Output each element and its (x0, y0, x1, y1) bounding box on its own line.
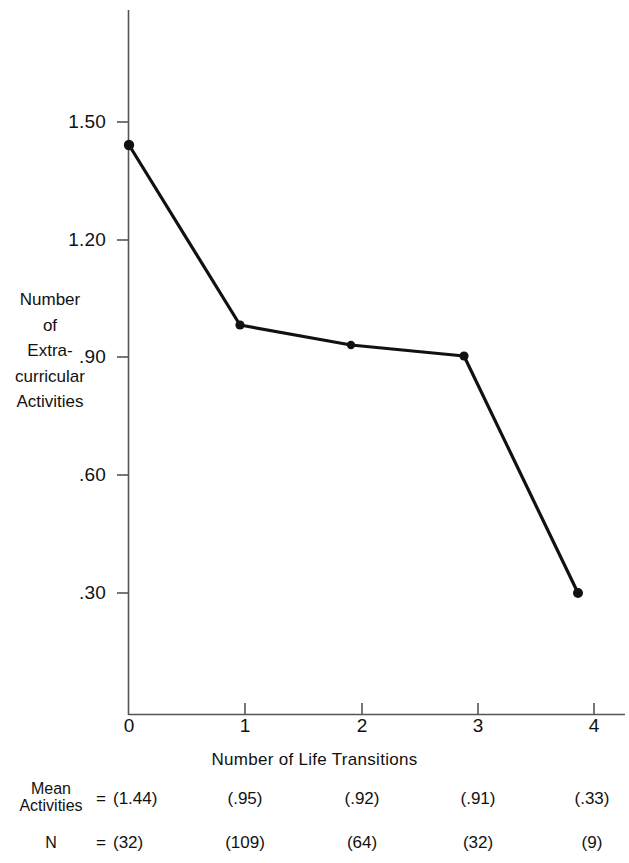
stats-row-label-mean-activities: Mean Activities (8, 780, 94, 814)
x-axis-title: Number of Life Transitions (0, 750, 629, 770)
stats-row-label-n-line-1: N (8, 834, 94, 851)
data-point-2 (347, 341, 355, 349)
stats-annotation-table: Mean Activities = (1.44) (.95) (.92) (.9… (0, 779, 629, 863)
x-tick-label-3: 3 (458, 716, 498, 735)
stats-row-label-line-2: Activities (8, 797, 94, 814)
y-axis-title-line-3: Extra- (2, 338, 98, 364)
stats-row-label-line-1: Mean (8, 780, 94, 797)
stats-cell-n-2: (64) (323, 834, 401, 851)
stats-row-n: N = (32) (109) (64) (32) (9) (0, 823, 629, 863)
y-tick-label-0-60: .60 (44, 465, 106, 484)
x-tick-label-0: 0 (109, 716, 149, 735)
stats-row-equals-mean: = (96, 790, 106, 807)
stats-cell-n-0: (32) (113, 834, 203, 851)
data-point-3 (459, 351, 468, 360)
line-chart-figure: 1.50 1.20 .90 .60 .30 Number of Extra- c… (0, 0, 629, 863)
stats-cell-n-1: (109) (206, 834, 284, 851)
stats-cell-n-3: (32) (439, 834, 517, 851)
x-tick-marks (245, 703, 594, 715)
stats-cell-mean-3: (.91) (439, 790, 517, 807)
y-axis-title-line-5: Activities (2, 389, 98, 415)
stats-row-label-n: N (8, 834, 94, 851)
y-axis-title-line-4: curricular (2, 364, 98, 390)
y-tick-marks (117, 122, 129, 593)
x-tick-label-1: 1 (225, 716, 265, 735)
data-line-mean-activities (129, 145, 578, 593)
data-point-0 (124, 140, 134, 150)
data-point-4 (573, 588, 583, 598)
y-tick-label-1-50: 1.50 (44, 112, 106, 131)
y-axis-title-line-1: Number (2, 287, 98, 313)
data-point-1 (235, 320, 244, 329)
stats-cell-mean-2: (.92) (323, 790, 401, 807)
x-tick-label-2: 2 (342, 716, 382, 735)
data-point-markers (124, 140, 583, 598)
stats-cell-mean-0: (1.44) (113, 790, 203, 807)
stats-cell-mean-1: (.95) (206, 790, 284, 807)
x-tick-label-4: 4 (574, 716, 614, 735)
stats-cell-mean-4: (.33) (553, 790, 629, 807)
y-tick-label-0-30: .30 (44, 583, 106, 602)
y-tick-label-1-20: 1.20 (44, 230, 106, 249)
stats-row-equals-n: = (96, 834, 106, 851)
y-axis-title: Number of Extra- curricular Activities (2, 287, 98, 415)
y-axis-title-line-2: of (2, 313, 98, 339)
stats-row-mean-activities: Mean Activities = (1.44) (.95) (.92) (.9… (0, 779, 629, 819)
stats-cell-n-4: (9) (553, 834, 629, 851)
